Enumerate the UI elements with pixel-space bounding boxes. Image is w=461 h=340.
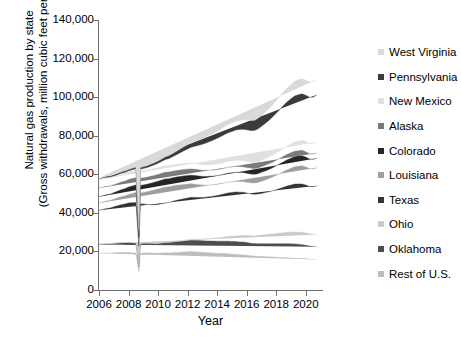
y-axis-tick-label: 20,000 <box>40 245 94 257</box>
legend-item[interactable]: New Mexico <box>378 89 461 114</box>
legend-item-label: Oklahoma <box>389 243 441 255</box>
x-axis-tick-mark <box>306 291 307 296</box>
legend-item[interactable]: Colorado <box>378 138 461 163</box>
area-series-rest-of-u-s <box>99 252 317 272</box>
legend-swatch-icon <box>378 221 384 227</box>
legend-swatch-icon <box>378 172 384 178</box>
legend-swatch-icon <box>378 98 384 104</box>
legend-item-label: Texas <box>389 194 419 206</box>
legend-item-label: Pennsylvania <box>389 71 457 83</box>
legend-item[interactable]: Texas <box>378 188 461 213</box>
x-axis-tick-mark <box>247 291 248 296</box>
legend-item-label: West Virginia <box>389 46 456 58</box>
y-axis-tick-label: 40,000 <box>40 207 94 219</box>
x-axis-tick-mark <box>158 291 159 296</box>
y-axis-tick-label: 60,000 <box>40 168 94 180</box>
y-axis-tick-label: 0 <box>40 284 94 296</box>
legend-swatch-icon <box>378 123 384 129</box>
y-axis-tick-mark <box>93 251 98 252</box>
legend-item[interactable]: Pennsylvania <box>378 65 461 90</box>
legend-item[interactable]: Oklahoma <box>378 237 461 262</box>
legend-swatch-icon <box>378 271 384 277</box>
legend-swatch-icon <box>378 246 384 252</box>
y-axis-tick-mark <box>93 136 98 137</box>
area-series-texas <box>99 184 317 247</box>
area-series-ohio <box>99 232 317 267</box>
legend-item-label: Colorado <box>389 145 436 157</box>
x-axis-tick-mark <box>99 291 100 296</box>
legend-item[interactable]: Ohio <box>378 212 461 237</box>
legend-item-label: Louisiana <box>389 169 438 181</box>
legend-item[interactable]: Louisiana <box>378 163 461 188</box>
chart-figure: Natural gas production by state (Gross w… <box>0 0 461 340</box>
legend-item[interactable]: Rest of U.S. <box>378 261 461 286</box>
legend-swatch-icon <box>378 148 384 154</box>
y-axis-title-line1: Natural gas production by state <box>22 0 36 210</box>
legend-item-label: Ohio <box>389 218 413 230</box>
legend-item-label: New Mexico <box>389 95 452 107</box>
x-axis-tick-label: 2020 <box>283 298 329 310</box>
x-axis-title: Year <box>99 314 322 328</box>
legend-swatch-icon <box>378 74 384 80</box>
y-axis-tick-mark <box>93 97 98 98</box>
y-axis-tick-label: 140,000 <box>40 14 94 26</box>
legend-swatch-icon <box>378 197 384 203</box>
y-axis-tick-label: 100,000 <box>40 91 94 103</box>
legend-item[interactable]: Alaska <box>378 114 461 139</box>
stacked-area-svg <box>99 20 322 290</box>
y-axis-tick-mark <box>93 290 98 291</box>
y-axis-tick-mark <box>93 59 98 60</box>
plot-area <box>99 20 322 290</box>
y-axis-tick-labels: 020,00040,00060,00080,000100,000120,0001… <box>38 0 94 340</box>
chart-legend: West VirginiaPennsylvaniaNew MexicoAlask… <box>378 40 461 286</box>
legend-item[interactable]: West Virginia <box>378 40 461 65</box>
legend-item-label: Alaska <box>389 120 424 132</box>
x-axis-tick-mark <box>217 291 218 296</box>
y-axis-tick-mark <box>93 20 98 21</box>
x-axis-tick-mark <box>276 291 277 296</box>
x-axis-line <box>98 290 323 291</box>
legend-swatch-icon <box>378 49 384 55</box>
y-axis-tick-label: 80,000 <box>40 130 94 142</box>
y-axis-tick-mark <box>93 213 98 214</box>
x-axis-tick-mark <box>129 291 130 296</box>
y-axis-tick-mark <box>93 174 98 175</box>
legend-item-label: Rest of U.S. <box>389 268 451 280</box>
x-axis-tick-mark <box>188 291 189 296</box>
y-axis-tick-label: 120,000 <box>40 53 94 65</box>
